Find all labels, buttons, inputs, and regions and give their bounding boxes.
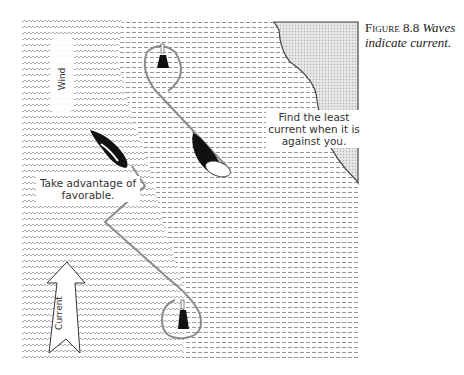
figure-label: Figure 8.8 [365, 20, 419, 35]
figure-caption: Figure 8.8 Waves indicate current. [365, 20, 463, 50]
current-label: Current [54, 296, 64, 330]
wind-label: Wind [57, 68, 67, 91]
annotation-lower: Take advantage of favorable. [36, 176, 140, 202]
annotation-upper: Find the least current when it is agains… [266, 110, 362, 148]
